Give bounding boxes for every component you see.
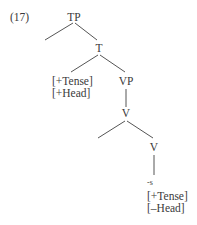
edge-v-vlower (127, 121, 153, 138)
edge-tp-left (45, 23, 73, 40)
node-v-upper: V (122, 107, 130, 119)
node-v-lower: V (150, 141, 158, 153)
edge-t-features (71, 55, 98, 72)
example-number: (17) (10, 11, 29, 23)
node-vp: VP (119, 75, 134, 87)
t-feature-tense: [+Tense] (52, 75, 93, 87)
edge-v-left (98, 121, 125, 138)
suffix-feature-head: [–Head] (147, 202, 185, 214)
suffix-feature-tense: [+Tense] (147, 190, 188, 202)
edge-tp-t (75, 23, 97, 40)
t-feature-head: [+Head] (52, 87, 90, 99)
edge-t-vp (100, 55, 125, 72)
node-tp: TP (67, 11, 80, 23)
node-t: T (95, 42, 102, 54)
suffix-s: -s (147, 179, 153, 187)
